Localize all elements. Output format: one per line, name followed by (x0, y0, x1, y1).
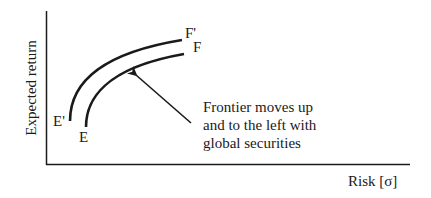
frontier-diagram: Expected return Risk [σ] E' E F' F Front… (0, 0, 431, 198)
x-axis-label: Risk [σ] (348, 173, 397, 189)
shift-arrow (136, 75, 191, 123)
y-axis-label: Expected return (23, 40, 39, 136)
label-e: E (79, 129, 88, 145)
annotation-line-2: and to the left with (203, 117, 317, 133)
annotation-line-1: Frontier moves up (203, 99, 313, 115)
label-f: F (193, 39, 201, 55)
annotation-line-3: global securities (203, 135, 301, 151)
global-frontier-curve (70, 40, 182, 121)
label-e-prime: E' (53, 113, 65, 129)
domestic-frontier-curve (86, 54, 184, 127)
